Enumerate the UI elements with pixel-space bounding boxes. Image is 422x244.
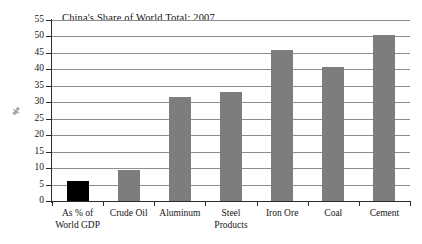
bar — [169, 97, 191, 201]
bar — [271, 50, 293, 201]
y-tick-label-slot: 35 — [0, 81, 44, 91]
x-category-label: Cement — [353, 208, 416, 220]
x-category-label-line: World GDP — [46, 220, 109, 232]
y-tick-label: 35 — [2, 81, 44, 91]
y-tick-label-slot: 55 — [0, 15, 44, 25]
x-category-label-line: Cement — [353, 208, 416, 220]
y-axis-line — [51, 19, 52, 203]
y-tick-label: 15 — [2, 147, 44, 157]
x-category-label-line: Products — [199, 220, 262, 232]
y-tick-label-slot: 0 — [0, 196, 44, 206]
x-tick-mark — [205, 201, 206, 206]
bar — [373, 35, 395, 201]
y-tick-label-slot: 30 — [0, 97, 44, 107]
bar — [67, 181, 89, 201]
gridline — [52, 86, 410, 87]
y-tick-label: 30 — [2, 97, 44, 107]
y-tick-label-slot: 25 — [0, 114, 44, 124]
y-tick-label-slot: 5 — [0, 180, 44, 190]
y-tick-label-slot: 50 — [0, 31, 44, 41]
x-tick-mark — [359, 201, 360, 206]
chart-container: China's Share of World Total: 2007 % 051… — [0, 0, 422, 244]
y-tick-label-slot: 40 — [0, 64, 44, 74]
y-tick-label: 50 — [2, 31, 44, 41]
bar — [220, 92, 242, 201]
y-tick-label: 55 — [2, 15, 44, 25]
bar — [322, 67, 344, 201]
y-tick-label-slot: 10 — [0, 163, 44, 173]
bar — [118, 170, 140, 201]
gridline — [52, 36, 410, 37]
y-tick-label: 40 — [2, 64, 44, 74]
x-tick-mark — [257, 201, 258, 206]
y-tick-label-slot: 45 — [0, 48, 44, 58]
x-axis-line — [51, 201, 410, 202]
gridline — [52, 69, 410, 70]
y-tick-label: 25 — [2, 114, 44, 124]
y-tick-label: 10 — [2, 163, 44, 173]
y-tick-label: 5 — [2, 180, 44, 190]
y-tick-label: 0 — [2, 196, 44, 206]
x-tick-mark — [103, 201, 104, 206]
y-tick-label: 20 — [2, 130, 44, 140]
y-tick-label: 45 — [2, 48, 44, 58]
x-tick-mark — [410, 201, 411, 206]
plot-area — [52, 20, 410, 201]
gridline — [52, 20, 410, 21]
x-tick-mark — [308, 201, 309, 206]
y-tick-label-slot: 15 — [0, 147, 44, 157]
gridline — [52, 53, 410, 54]
x-tick-mark — [52, 201, 53, 206]
x-tick-mark — [154, 201, 155, 206]
y-tick-label-slot: 20 — [0, 130, 44, 140]
